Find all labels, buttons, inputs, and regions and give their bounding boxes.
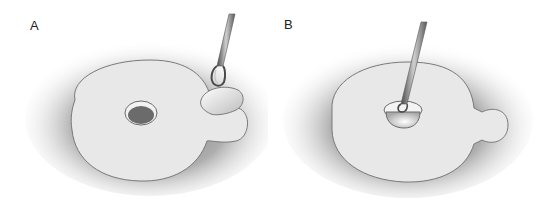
panel-b-illustration — [268, 0, 536, 201]
central-hole — [125, 101, 157, 125]
panel-a-illustration — [0, 0, 268, 201]
panel-b: B — [268, 0, 536, 201]
panel-a: A — [0, 0, 268, 201]
